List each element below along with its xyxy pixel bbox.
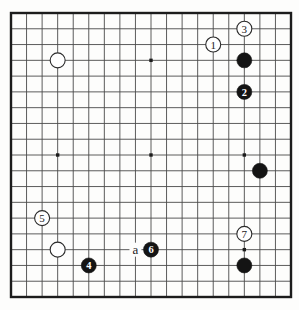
stone-number-text: 1 <box>210 39 216 51</box>
stone-black-2: 2 <box>237 84 252 99</box>
black-stone-circle <box>237 258 252 273</box>
point-label-text: a <box>133 242 139 257</box>
black-stone-circle <box>237 53 252 68</box>
stone-number-text: 4 <box>86 260 92 271</box>
stone-black-4: 4 <box>81 258 96 273</box>
stone-number-text: 2 <box>242 87 247 98</box>
stone-black-6: 6 <box>144 242 159 257</box>
stone-number-text: 5 <box>39 212 45 224</box>
stone-white-7: 7 <box>237 226 252 241</box>
stone-white-5: 5 <box>35 211 50 226</box>
stone-number-text: 3 <box>242 23 248 35</box>
stone-white-1: 1 <box>206 37 221 52</box>
star-point <box>56 153 59 156</box>
stone-number-text: 7 <box>242 228 248 240</box>
white-stone-circle <box>50 53 65 68</box>
stone-white-plain <box>50 242 65 257</box>
star-point <box>149 153 152 156</box>
go-board-diagram: a1234567 <box>0 0 299 310</box>
star-point <box>243 248 246 251</box>
stone-white-3: 3 <box>237 21 252 36</box>
star-point <box>243 153 246 156</box>
star-point <box>149 59 152 62</box>
stone-black-plain <box>237 53 252 68</box>
white-stone-circle <box>50 242 65 257</box>
stone-number-text: 6 <box>148 244 153 255</box>
point-label-a: a <box>129 242 141 257</box>
stone-black-plain <box>237 258 252 273</box>
go-diagram-page: a1234567 <box>0 0 299 310</box>
stone-white-plain <box>50 53 65 68</box>
stone-black-plain <box>252 163 267 178</box>
black-stone-circle <box>252 163 267 178</box>
